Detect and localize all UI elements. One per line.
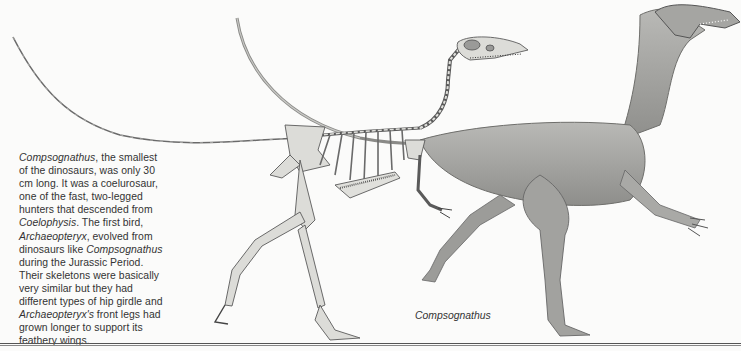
text-line-1: of the dinosaurs, was only 30 xyxy=(19,164,199,177)
page-rule-divider xyxy=(0,343,741,344)
page-rule-divider-secondary xyxy=(0,345,741,346)
body-text: Compsognathus, the smallest of the dinos… xyxy=(19,151,199,347)
text-line-11: different types of hip girdle and xyxy=(19,295,199,308)
text-line-7: dinosaurs like Compsognathus xyxy=(19,243,199,256)
dinosaur-tail xyxy=(237,18,480,144)
text-line-5: Coelophysis. The first bird, xyxy=(19,216,199,229)
text-line-2: cm long. It was a coelurosaur, xyxy=(19,177,199,190)
text-line-10: very similar but they had xyxy=(19,282,199,295)
figure-caption: Compsognathus xyxy=(415,310,491,321)
text-line-4: hunters that descended from xyxy=(19,203,199,216)
text-line-13: grown longer to support its xyxy=(19,321,199,334)
text-line-6: Archaeopteryx, evolved from xyxy=(19,230,199,243)
skeleton-tail xyxy=(13,37,300,143)
text-line-3: one of the fast, two-legged xyxy=(19,190,199,203)
text-line-0: Compsognathus, the smallest xyxy=(19,151,199,164)
text-line-8: during the Jurassic Period. xyxy=(19,256,199,269)
text-line-9: Their skeletons were basically xyxy=(19,269,199,282)
text-line-12: Archaeopteryx's front legs had xyxy=(19,308,199,321)
